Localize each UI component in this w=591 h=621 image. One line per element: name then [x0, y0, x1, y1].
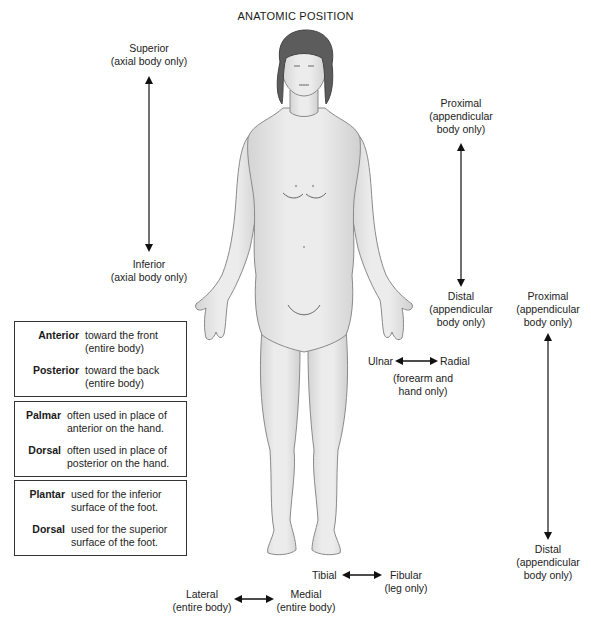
radial-label: Radial: [440, 355, 480, 368]
definition-term: Dorsal: [21, 444, 67, 470]
definition-line: surface of the foot.: [71, 501, 180, 514]
inferior-note: (axial body only): [99, 271, 199, 284]
superior-term: Superior: [99, 42, 199, 55]
proximal-upper-note-2: body only): [421, 123, 501, 136]
torso: [248, 108, 361, 352]
fibular-term: Fibular: [378, 569, 434, 582]
inferior-term: Inferior: [99, 258, 199, 271]
definition-text: toward the back (entire body): [85, 364, 180, 390]
ulnar-label: Ulnar: [368, 355, 396, 368]
distal-lower-note-1: (appendicular: [508, 556, 588, 569]
definition-row: Dorsal used for the superior surface of …: [21, 523, 180, 549]
distal-upper-note-1: (appendicular: [421, 303, 501, 316]
definition-row: Posterior toward the back (entire body): [21, 364, 180, 390]
definition-row: Anterior toward the front (entire body): [21, 329, 180, 355]
distal-lower-label: Distal (appendicular body only): [508, 543, 588, 582]
definition-row: Dorsal often used in place of posterior …: [21, 444, 180, 470]
distal-upper-term: Distal: [421, 290, 501, 303]
fibular-note: (leg only): [378, 582, 434, 595]
definition-line: (entire body): [85, 377, 180, 390]
medial-term: Medial: [272, 588, 340, 601]
definition-line: often used in place of: [67, 444, 180, 457]
inferior-label: Inferior (axial body only): [99, 258, 199, 284]
definition-term: Dorsal: [21, 523, 71, 549]
definition-term: Anterior: [21, 329, 85, 355]
definition-term: Palmar: [21, 409, 67, 435]
definition-text: often used in place of anterior on the h…: [67, 409, 180, 435]
definition-text: often used in place of posterior on the …: [67, 444, 180, 470]
left-leg: [260, 330, 300, 555]
definition-line: toward the front: [85, 329, 180, 342]
human-figure: [196, 40, 413, 555]
proximal-lower-label: Proximal (appendicular body only): [508, 290, 588, 329]
proximal-upper-label: Proximal (appendicular body only): [421, 97, 501, 136]
palmar-dorsal-box: Palmar often used in place of anterior o…: [14, 401, 187, 477]
forearm-note-2: hand only): [378, 385, 468, 398]
definition-text: used for the inferior surface of the foo…: [71, 488, 180, 514]
tibial-label: Tibial: [312, 569, 344, 582]
medial-note: (entire body): [272, 601, 340, 614]
definition-term: Posterior: [21, 364, 85, 390]
definition-line: used for the superior: [71, 523, 180, 536]
distal-upper-label: Distal (appendicular body only): [421, 290, 501, 329]
lateral-label: Lateral (entire body): [168, 588, 236, 614]
proximal-upper-term: Proximal: [421, 97, 501, 110]
definition-row: Palmar often used in place of anterior o…: [21, 409, 180, 435]
plantar-dorsal-box: Plantar used for the inferior surface of…: [14, 480, 187, 556]
superior-note: (axial body only): [99, 55, 199, 68]
definition-term: Plantar: [21, 488, 71, 514]
fibular-label: Fibular (leg only): [378, 569, 434, 595]
lateral-term: Lateral: [168, 588, 236, 601]
forearm-note: (forearm and hand only): [378, 372, 468, 398]
definition-line: often used in place of: [67, 409, 180, 422]
definition-text: used for the superior surface of the foo…: [71, 523, 180, 549]
distal-upper-note-2: body only): [421, 316, 501, 329]
right-leg: [308, 330, 348, 555]
definition-line: used for the inferior: [71, 488, 180, 501]
definition-text: toward the front (entire body): [85, 329, 180, 355]
definition-row: Plantar used for the inferior surface of…: [21, 488, 180, 514]
distal-lower-term: Distal: [508, 543, 588, 556]
proximal-lower-note-2: body only): [508, 316, 588, 329]
forearm-note-1: (forearm and: [378, 372, 468, 385]
anterior-posterior-box: Anterior toward the front (entire body) …: [14, 321, 187, 397]
lateral-note: (entire body): [168, 601, 236, 614]
definition-line: (entire body): [85, 342, 180, 355]
superior-label: Superior (axial body only): [99, 42, 199, 68]
definition-line: toward the back: [85, 364, 180, 377]
proximal-upper-note-1: (appendicular: [421, 110, 501, 123]
definition-line: surface of the foot.: [71, 536, 180, 549]
proximal-lower-note-1: (appendicular: [508, 303, 588, 316]
proximal-lower-term: Proximal: [508, 290, 588, 303]
medial-label: Medial (entire body): [272, 588, 340, 614]
distal-lower-note-2: body only): [508, 569, 588, 582]
definition-line: posterior on the hand.: [67, 457, 180, 470]
definition-line: anterior on the hand.: [67, 422, 180, 435]
